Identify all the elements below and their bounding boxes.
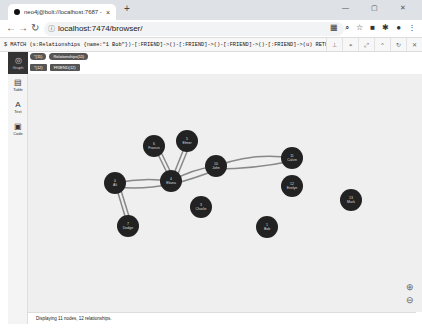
graph-node[interactable]: 11Calvin (281, 147, 303, 169)
extension-icon[interactable]: ■ (370, 23, 375, 33)
graph-node[interactable]: 0Ali (104, 172, 126, 194)
sidebar-item-table[interactable]: ▤Table (8, 74, 28, 96)
legend: *(11)Relationships(11) *(12)FRIEND(12) (30, 53, 91, 71)
graph-edges (28, 74, 422, 312)
graph-node[interactable]: 12Evelyn (281, 175, 303, 197)
nodes-count-pill[interactable]: *(11) (30, 53, 46, 60)
new-tab-button[interactable]: + (124, 3, 130, 14)
node-name: Francis (143, 146, 165, 150)
menu-icon[interactable]: ⋮ (408, 23, 416, 33)
expand-icon[interactable]: ⤢ (358, 38, 374, 52)
frame-controls: ⊥⌖⤢^↻✕ (326, 38, 422, 52)
info-icon: ⓘ (48, 22, 55, 36)
graph-node[interactable]: 13Mark (340, 189, 362, 211)
tab-bar: neo4j@bolt://localhost:7687 -× + — ▢ ✕ (0, 0, 422, 20)
zoom-icon[interactable]: ⌕ (345, 23, 349, 33)
close-frame-icon[interactable]: ✕ (406, 38, 422, 52)
graph-node[interactable]: 5Elmer (176, 130, 198, 152)
query-text: $ MATCH (s:Relationships {name:"1 Bob"})… (4, 42, 373, 48)
sidebar-label: Graph (12, 65, 23, 70)
graph-node[interactable]: 10John (205, 155, 227, 177)
extensions: ▦⌕☆■✱●⋮ (330, 23, 416, 33)
reload-icon[interactable]: ↻ (31, 22, 39, 33)
forward-icon[interactable]: → (18, 22, 28, 33)
node-label-pill[interactable]: Relationships(11) (49, 53, 88, 60)
rels-count-pill[interactable]: *(12) (30, 64, 47, 71)
status-bar: Displaying 11 nodes, 12 relationships. (28, 312, 416, 324)
sidebar-label: Text (14, 109, 21, 114)
back-icon[interactable]: ← (6, 22, 16, 33)
neo4j-favicon-icon (14, 9, 20, 15)
node-name: Charlie (190, 207, 212, 211)
graph-icon: ◎ (15, 56, 22, 65)
table-icon: ▤ (14, 78, 22, 87)
url-text: localhost:7474/browser/ (58, 24, 143, 33)
node-name: John (205, 166, 227, 170)
view-sidebar: ◎Graph ▤Table AText ▣Code (8, 52, 28, 324)
pin-icon[interactable]: ⊥ (326, 38, 342, 52)
puzzle-icon[interactable]: ✱ (382, 23, 389, 33)
url-input[interactable]: ⓘlocalhost:7474/browser/ (44, 22, 344, 36)
sidebar-label: Code (13, 131, 23, 136)
code-icon: ▣ (14, 122, 22, 131)
zoom-in-icon[interactable]: ⊕ (406, 282, 414, 292)
sidebar-item-text[interactable]: AText (8, 96, 28, 118)
graph-node[interactable]: 4Eliana (160, 170, 182, 192)
sidebar-item-graph[interactable]: ◎Graph (8, 52, 28, 74)
node-name: Calvin (281, 158, 303, 162)
graph-node[interactable]: 3Charlie (190, 196, 212, 218)
browser-tab[interactable]: neo4j@bolt://localhost:7687 -× (8, 4, 116, 20)
close-tab-icon[interactable]: × (106, 9, 110, 16)
sidebar-item-code[interactable]: ▣Code (8, 118, 28, 140)
node-name: Mark (340, 200, 362, 204)
node-name: Elmer (176, 141, 198, 145)
window-controls[interactable]: — ▢ ✕ (342, 4, 416, 12)
node-name: Evelyn (281, 186, 303, 190)
pin2-icon[interactable]: ⌖ (342, 38, 358, 52)
rel-type-pill[interactable]: FRIEND(12) (50, 64, 80, 71)
profile-icon[interactable]: ● (396, 23, 401, 33)
address-bar: ← → ↻ ⓘlocalhost:7474/browser/ ▦⌕☆■✱●⋮ (0, 20, 422, 38)
graph-node[interactable]: 1Bob (256, 216, 278, 238)
collapse-icon[interactable]: ^ (374, 38, 390, 52)
text-icon: A (15, 100, 20, 109)
translate-icon[interactable]: ▦ (330, 23, 338, 33)
zoom-out-icon[interactable]: ⊖ (406, 295, 414, 305)
star-icon[interactable]: ☆ (356, 23, 363, 33)
graph-node[interactable]: 7Dodge (117, 215, 139, 237)
node-name: Dodge (117, 226, 139, 230)
node-name: Bob (256, 227, 278, 231)
graph-node[interactable]: 6Francis (143, 135, 165, 157)
rerun-icon[interactable]: ↻ (390, 38, 406, 52)
query-editor[interactable]: $ MATCH (s:Relationships {name:"1 Bob"})… (0, 38, 422, 52)
node-name: Ali (104, 183, 126, 187)
tab-title: neo4j@bolt://localhost:7687 - (24, 9, 102, 15)
node-name: Eliana (160, 181, 182, 185)
sidebar-label: Table (13, 87, 23, 92)
